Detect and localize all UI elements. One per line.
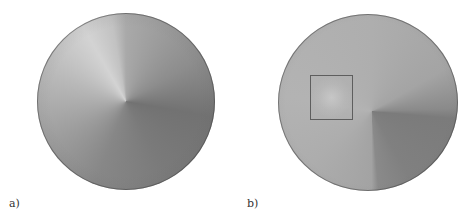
region-of-interest-box: [310, 75, 353, 120]
panel-label-b: b): [247, 197, 258, 210]
sample-disk-a: [37, 13, 215, 190]
figure-panel-a: a): [0, 0, 235, 218]
panel-label-a: a): [9, 197, 20, 210]
sample-disk-b: [278, 14, 458, 191]
figure-panel-b: b): [235, 0, 469, 218]
